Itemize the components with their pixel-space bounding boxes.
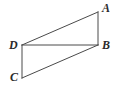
segment-DA [22, 12, 98, 45]
geometry-figure: A B C D [0, 0, 118, 93]
vertex-label-a: A [102, 2, 110, 14]
segment-CB [22, 45, 98, 78]
vertex-label-c: C [10, 71, 18, 83]
vertex-label-d: D [9, 39, 18, 51]
vertex-label-b: B [102, 39, 110, 51]
